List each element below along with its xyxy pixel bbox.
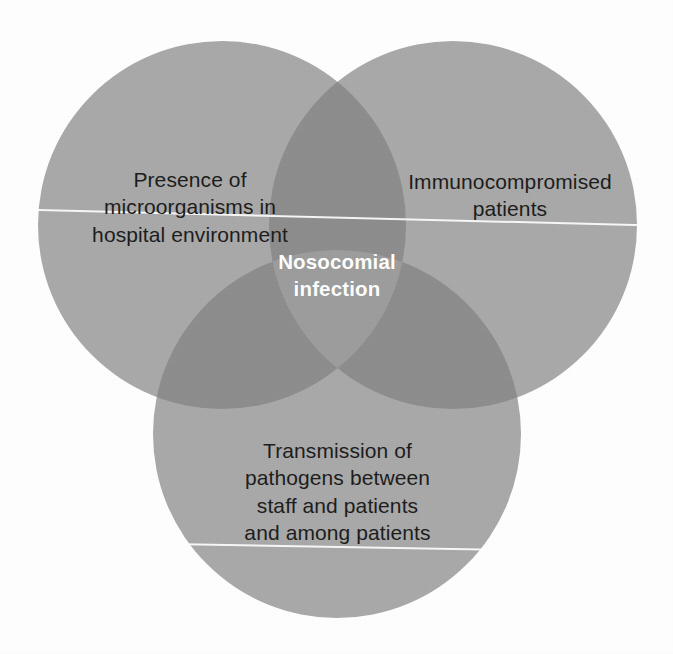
venn-label-immunocompromised: Immunocompromised patients (377, 168, 643, 223)
venn-label-microorganisms: Presence of microorganisms in hospital e… (54, 166, 326, 248)
venn-label-transmission: Transmission of pathogens between staff … (185, 437, 490, 546)
venn-diagram: Presence of microorganisms in hospital e… (0, 0, 673, 654)
venn-canvas (0, 0, 673, 654)
venn-label-nosocomial-infection: Nosocomial infection (237, 249, 437, 302)
